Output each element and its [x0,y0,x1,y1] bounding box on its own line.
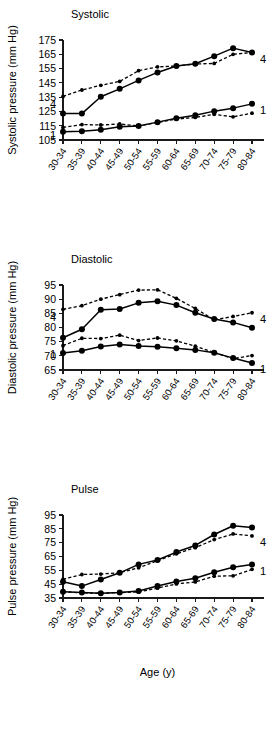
y-tick-label: 65 [44,364,56,376]
y-tick-label: 85 [44,523,56,535]
x-tick-label: 35-39 [65,604,88,630]
series-end-label-4: 4 [260,313,266,325]
series-line-1 [63,534,252,579]
series-2-point [249,325,255,331]
series-4-point [249,562,255,568]
y-tick-label: 175 [38,34,56,46]
series-2-point [136,561,142,567]
series-1-point [212,538,216,542]
x-tick-label: 45-49 [102,604,125,630]
series-1-point [99,83,103,87]
series-2-point [79,326,85,332]
series-2-point [211,53,217,59]
x-tick-label: 80-84 [235,604,258,630]
diastolic-chart-svg: Diastolic65707580859095Diastolic pressur… [0,245,279,475]
series-3-point [118,333,122,337]
series-end-label-1: 1 [260,104,266,116]
series-line-1 [63,290,252,320]
series-3-point [61,344,65,348]
series-2-point [211,532,217,538]
y-tick-label: 55 [44,564,56,576]
series-4-point [192,347,198,353]
series-2-point [60,335,66,341]
series-end-label-1: 1 [260,565,266,577]
series-2-point [192,61,198,67]
x-tick-label: 70-74 [197,376,220,402]
y-axis-title: Pulse pressure (mm Hg) [6,497,18,616]
series-line-2 [63,301,252,338]
series-2-point [155,298,161,304]
x-tick-label: 50-54 [121,376,144,402]
x-tick-label: 60-64 [159,146,182,172]
y-tick-label: 145 [38,77,56,89]
x-tick-label: 45-49 [102,146,125,172]
series-1-point [99,572,103,576]
series-4-point [79,128,85,134]
series-2-point [98,94,104,100]
series-2-point [211,316,217,322]
series-1-point [156,288,160,292]
y-axis-title: Diastolic pressure (mm Hg) [6,261,18,394]
y-tick-label: 155 [38,62,56,74]
y-tick-label: 95 [44,279,56,291]
series-line-2 [63,48,252,113]
series-3-point [80,336,84,340]
y-tick-label: 75 [44,335,56,347]
series-2-point [230,523,236,529]
y-axis-title: Systolic pressure (mm Hg) [6,25,18,155]
series-2-point [173,302,179,308]
series-4-point [230,105,236,111]
series-3-point [250,111,254,115]
series-4-point [79,348,85,354]
series-2-point [117,570,123,576]
series-start-label-1: 1 [50,348,56,360]
x-tick-label: 40-44 [83,604,106,630]
x-tick-label: 75-79 [216,376,239,402]
y-tick-label: 35 [44,592,56,604]
x-tick-label: 65-69 [178,376,201,402]
x-tick-label: 55-59 [140,146,163,172]
series-2-point [60,111,66,117]
series-2-point [173,63,179,69]
series-3-point [137,339,141,343]
series-2-point [117,86,123,92]
series-4-point [211,108,217,114]
x-tick-label: 30-34 [46,376,69,402]
x-tick-label: 30-34 [46,146,69,172]
series-2-point [60,579,66,585]
series-4-point [117,342,123,348]
series-1-point [80,88,84,92]
x-tick-label: 70-74 [197,604,220,630]
series-4-point [249,101,255,107]
series-end-label-4: 4 [260,536,266,548]
y-tick-label: 90 [44,293,56,305]
series-1-point [80,573,84,577]
series-start-label-4: 4 [50,311,56,323]
series-2-point [136,77,142,83]
series-3-point [250,567,254,571]
series-4-point [117,124,123,130]
series-end-label-1: 1 [260,363,266,375]
series-4-point [60,129,66,135]
x-tick-label: 35-39 [65,146,88,172]
series-1-point [80,304,84,308]
series-4-point [155,344,161,350]
series-4-point [79,590,85,596]
series-1-point [137,288,141,292]
series-2-point [98,576,104,582]
series-line-2 [63,526,252,586]
panel-title: Diastolic [71,253,113,265]
y-tick-label: 95 [44,509,56,521]
series-3-point [175,339,179,343]
series-3-point [231,115,235,119]
series-4-point [211,350,217,356]
series-4-point [155,119,161,125]
series-1-point [61,307,65,311]
series-1-point [118,80,122,84]
series-4-point [155,583,161,589]
x-tick-label: 50-54 [121,604,144,630]
series-4-point [98,590,104,596]
series-1-point [231,532,235,536]
series-4-point [230,355,236,361]
series-3-point [156,336,160,340]
